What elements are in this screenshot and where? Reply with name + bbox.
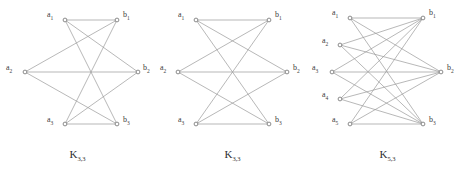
vertex-node-b1 xyxy=(421,16,425,20)
vertex-label-a2: a2 xyxy=(322,37,328,47)
graph-caption-1: K3,3 xyxy=(0,148,155,162)
vertex-node-b3 xyxy=(267,122,271,126)
vertex-label-b3: b3 xyxy=(275,116,282,126)
graph-caption-2: K3,3 xyxy=(155,148,310,162)
vertex-label-a3: a3 xyxy=(312,64,318,74)
vertex-label-a4: a4 xyxy=(322,91,328,101)
vertex-node-a2 xyxy=(176,70,180,74)
graph-edge xyxy=(196,20,287,72)
graph-edge xyxy=(196,72,287,124)
graph-caption-3: K5,3 xyxy=(310,148,465,162)
vertex-node-a5 xyxy=(348,122,352,126)
vertex-node-a1 xyxy=(194,18,198,22)
vertex-node-a2 xyxy=(338,43,342,47)
graph-edge xyxy=(340,45,423,124)
vertex-node-b3 xyxy=(421,122,425,126)
vertex-node-b1 xyxy=(267,18,271,22)
graph-drawing-1 xyxy=(0,0,155,145)
vertex-label-b3: b3 xyxy=(123,116,130,126)
graph-edge xyxy=(340,18,423,99)
graph-edge xyxy=(25,20,117,72)
edge-group xyxy=(178,20,287,124)
vertex-label-a2: a2 xyxy=(160,64,166,74)
vertex-node-a1 xyxy=(63,18,67,22)
vertex-label-b2: b2 xyxy=(143,64,150,74)
graph-edge xyxy=(178,72,269,124)
vertex-label-a3: a3 xyxy=(47,116,53,126)
graph-edge xyxy=(65,20,138,72)
vertex-node-a3 xyxy=(63,122,67,126)
edge-group xyxy=(332,18,441,124)
vertex-label-b1: b1 xyxy=(429,9,436,19)
vertex-node-b2 xyxy=(136,70,140,74)
vertex-node-b3 xyxy=(115,122,119,126)
vertex-node-b1 xyxy=(115,18,119,22)
vertex-label-a5: a5 xyxy=(332,116,338,126)
graph-panel-3: a1a2a3a4a5b1b2b3K5,3 xyxy=(310,0,465,178)
vertex-label-b1: b1 xyxy=(123,11,130,21)
vertex-node-b2 xyxy=(439,70,443,74)
vertex-label-a3: a3 xyxy=(178,116,184,126)
vertex-label-a2: a2 xyxy=(6,64,12,74)
bipartite-graph-figure: a1a2a3b1b2b3K3,3a1a2a3b1b2b3K3,3a1a2a3a4… xyxy=(0,0,465,178)
vertex-node-a4 xyxy=(338,97,342,101)
graph-edge xyxy=(350,72,441,124)
vertex-label-b2: b2 xyxy=(293,64,300,74)
graph-panel-2: a1a2a3b1b2b3K3,3 xyxy=(155,0,310,178)
vertex-label-a1: a1 xyxy=(47,11,53,21)
vertex-node-a2 xyxy=(23,70,27,74)
vertex-label-b3: b3 xyxy=(429,116,436,126)
graph-panel-1: a1a2a3b1b2b3K3,3 xyxy=(0,0,155,178)
vertex-node-a1 xyxy=(348,16,352,20)
vertex-label-a1: a1 xyxy=(178,11,184,21)
vertex-label-a1: a1 xyxy=(332,9,338,19)
graph-edge xyxy=(178,20,269,72)
graph-edge xyxy=(332,72,423,124)
vertex-label-b2: b2 xyxy=(447,64,454,74)
edge-group xyxy=(25,20,138,124)
graph-edge xyxy=(25,72,117,124)
vertex-label-b1: b1 xyxy=(275,11,282,21)
vertex-node-a3 xyxy=(194,122,198,126)
vertex-node-a3 xyxy=(330,70,334,74)
vertex-node-b2 xyxy=(285,70,289,74)
